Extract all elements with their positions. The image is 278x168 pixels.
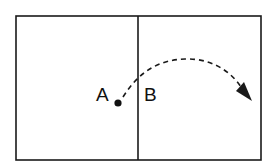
dashed-curved-arrow [123,59,244,97]
label-b: B [144,84,157,105]
diagram-canvas: A B [0,0,278,168]
point-a-dot [114,99,121,106]
label-a: A [96,84,109,105]
arrowhead-icon [236,82,252,101]
